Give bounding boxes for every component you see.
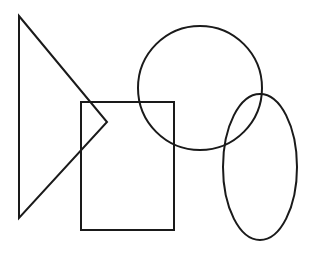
diagram-canvas <box>0 0 315 255</box>
ellipse-shape <box>223 94 297 240</box>
circle-shape <box>138 26 262 150</box>
shapes-diagram <box>0 0 315 255</box>
triangle-shape <box>19 16 107 218</box>
rectangle-shape <box>81 102 174 230</box>
